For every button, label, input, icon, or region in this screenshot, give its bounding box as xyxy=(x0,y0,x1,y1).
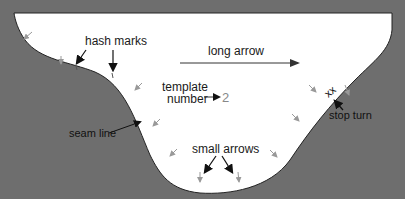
template-number-value: 2 xyxy=(222,90,229,105)
hash-marks-label: hash marks xyxy=(85,34,147,48)
long-arrow-label: long arrow xyxy=(208,44,264,58)
number-label: number xyxy=(167,92,208,106)
small-arrows-label: small arrows xyxy=(192,142,259,156)
hash-mark-icon xyxy=(76,66,77,70)
pattern-template-diagram: hash marks long arrow template number 2 … xyxy=(0,0,405,199)
stop-turn-label: stop turn xyxy=(329,109,372,121)
